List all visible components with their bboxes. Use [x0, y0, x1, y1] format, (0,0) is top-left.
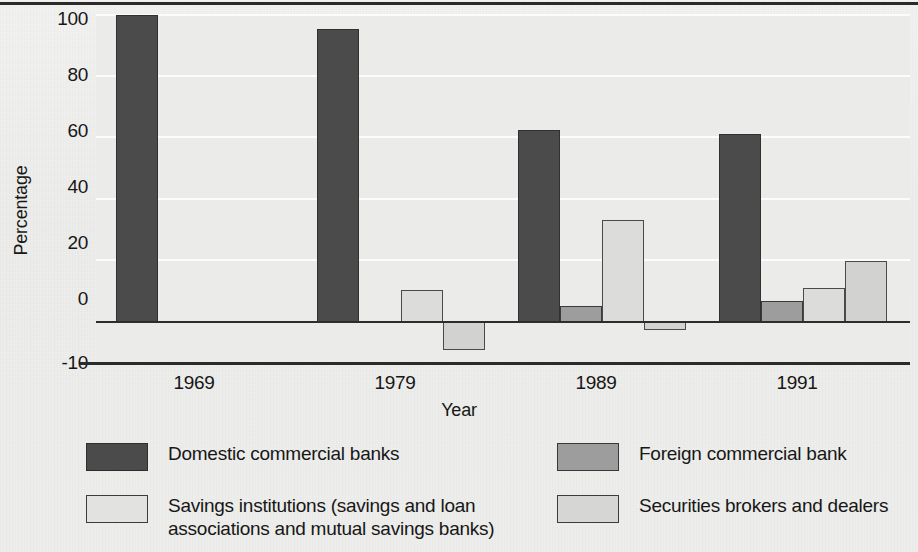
gridline-100 [96, 14, 910, 16]
y-tick-0: 0 [18, 289, 88, 308]
gridline-60 [96, 136, 910, 138]
x-tick-1991: 1991 [737, 372, 857, 394]
legend-entry-foreign-commercial-bank[interactable]: Foreign commercial bank [557, 442, 847, 471]
x-tick-1969: 1969 [134, 372, 254, 394]
y-tick-80: 80 [18, 65, 88, 84]
plot-area [96, 14, 910, 364]
bar [401, 290, 443, 323]
y-tick-60: 60 [18, 121, 88, 140]
bar [518, 130, 560, 323]
bar [602, 220, 644, 323]
y-tick-100: 100 [18, 9, 88, 28]
gridline-20 [96, 259, 910, 261]
y-tick-20: 20 [18, 233, 88, 252]
legend-label-savings: Savings institutions (savings and loan a… [168, 494, 494, 540]
gridline-40 [96, 198, 910, 200]
legend-swatch-icon-securities [557, 495, 619, 523]
legend-entry-securities-brokers-dealers[interactable]: Securities brokers and dealers [557, 494, 888, 523]
bar [845, 261, 887, 323]
legend-swatch-icon-savings [86, 495, 148, 523]
x-axis-title: Year [0, 400, 918, 421]
chart-legend: Domestic commercial banks Savings instit… [0, 434, 918, 552]
gridline-80 [96, 75, 910, 77]
chart-figure: Percentage 100 80 60 40 20 0 -10 1969 19… [0, 0, 918, 552]
bar [761, 301, 803, 323]
x-tick-1979: 1979 [335, 372, 455, 394]
legend-label-securities: Securities brokers and dealers [639, 494, 888, 517]
x-tick-1989: 1989 [536, 372, 656, 394]
legend-swatch-icon-foreign [557, 443, 619, 471]
y-tick-40: 40 [18, 177, 88, 196]
top-border-rule [0, 2, 918, 5]
bar [803, 288, 845, 323]
legend-entry-savings-institutions[interactable]: Savings institutions (savings and loan a… [86, 494, 494, 540]
legend-label-domestic: Domestic commercial banks [168, 442, 399, 465]
legend-swatch-icon-domestic [86, 443, 148, 471]
bar [116, 15, 158, 323]
bar [317, 29, 359, 323]
legend-entry-domestic-commercial-banks[interactable]: Domestic commercial banks [86, 442, 399, 471]
zero-baseline [96, 321, 910, 323]
bar [719, 134, 761, 323]
x-axis-line [80, 362, 910, 365]
bar [443, 321, 485, 350]
legend-label-foreign: Foreign commercial bank [639, 442, 847, 465]
y-tick-neg10: -10 [18, 353, 88, 372]
